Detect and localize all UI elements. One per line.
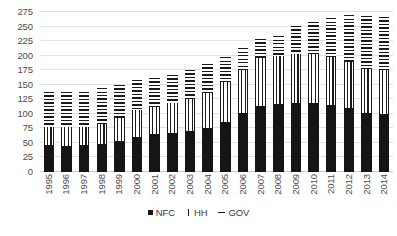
bar-group: [149, 12, 160, 172]
bar-segment-hh: [308, 54, 319, 102]
bar-segment-nfc: [167, 133, 178, 172]
bar-segment-hh: [114, 118, 125, 141]
bar-segment-gov: [308, 22, 319, 55]
bar-segment-nfc: [114, 141, 125, 172]
y-tick-label: 250: [17, 22, 33, 32]
bars-layer: [40, 12, 393, 172]
bar-segment-hh: [44, 127, 55, 146]
bar-segment-nfc: [61, 146, 72, 172]
x-tick-label: 2012: [344, 174, 354, 195]
y-tick-label: 25: [23, 153, 33, 163]
bar-segment-nfc: [149, 134, 160, 172]
bar-segment-hh: [79, 127, 90, 146]
bar-segment-gov: [255, 39, 266, 58]
legend-label: GOV: [228, 208, 249, 218]
y-tick-label: 225: [17, 36, 33, 46]
bar-segment-hh: [220, 82, 231, 122]
legend-item-hh[interactable]: HH: [186, 208, 208, 218]
bar-segment-gov: [79, 92, 90, 126]
bar-group: [185, 12, 196, 172]
bar-segment-gov: [344, 15, 355, 62]
bar-segment-nfc: [132, 137, 143, 172]
bar-segment-nfc: [361, 113, 372, 172]
bar-segment-hh: [149, 107, 160, 134]
bar-segment-gov: [114, 85, 125, 118]
bar-segment-nfc: [185, 131, 196, 172]
bar-segment-hh: [344, 62, 355, 108]
bar-segment-nfc: [308, 103, 319, 172]
x-tick-label: 2011: [326, 174, 336, 194]
legend-label: NFC: [156, 208, 175, 218]
bar-group: [361, 12, 372, 172]
bar-segment-hh: [61, 127, 72, 147]
bar-segment-hh: [326, 57, 337, 104]
y-tick-label: 200: [17, 51, 33, 61]
bar-group: [255, 12, 266, 172]
x-tick-label: 2004: [203, 174, 213, 195]
x-tick-label: 2014: [379, 174, 389, 195]
bar-group: [220, 12, 231, 172]
bar-group: [273, 12, 284, 172]
bar-segment-gov: [185, 70, 196, 99]
bar-group: [326, 12, 337, 172]
x-tick-label: 2006: [238, 174, 248, 195]
bar-segment-gov: [291, 26, 302, 55]
bar-segment-hh: [167, 103, 178, 133]
x-tick-label: 1999: [114, 174, 124, 195]
bar-segment-gov: [220, 57, 231, 83]
bar-segment-gov: [149, 78, 160, 107]
legend-label: HH: [194, 208, 208, 218]
bar-segment-nfc: [255, 106, 266, 172]
x-tick-label: 2003: [185, 174, 195, 195]
x-tick-label: 2009: [291, 174, 301, 195]
x-tick-label: 2001: [150, 174, 160, 195]
bar-segment-nfc: [97, 144, 108, 173]
bar-segment-hh: [273, 56, 284, 104]
bar-segment-nfc: [79, 145, 90, 172]
x-tick-label: 2010: [309, 174, 319, 195]
stacked-bar-chart: 0255075100125150175200225250275 19951996…: [0, 0, 397, 236]
bar-segment-gov: [44, 92, 55, 127]
bar-segment-nfc: [273, 104, 284, 172]
bar-segment-gov: [273, 36, 284, 56]
bar-segment-gov: [61, 92, 72, 126]
x-tick-label: 2002: [167, 174, 177, 195]
bar-segment-gov: [202, 64, 213, 93]
bar-segment-nfc: [220, 122, 231, 172]
bar-group: [167, 12, 178, 172]
bar-group: [114, 12, 125, 172]
bar-group: [379, 12, 390, 172]
x-tick-label: 2005: [220, 174, 230, 195]
bar-segment-hh: [238, 70, 249, 114]
horizontal-dash-icon: [218, 210, 225, 215]
bar-segment-hh: [97, 124, 108, 143]
bar-segment-nfc: [326, 105, 337, 172]
bar-group: [291, 12, 302, 172]
x-tick-label: 2007: [256, 174, 266, 195]
y-tick-label: 100: [17, 109, 33, 119]
y-tick-label: 0: [28, 167, 33, 177]
y-tick-label: 75: [23, 124, 33, 134]
legend-item-nfc[interactable]: NFC: [148, 208, 175, 218]
bar-segment-nfc: [238, 113, 249, 172]
bar-segment-gov: [167, 75, 178, 104]
x-tick-label: 2008: [273, 174, 283, 195]
bar-group: [79, 12, 90, 172]
bar-segment-hh: [379, 70, 390, 114]
bar-segment-nfc: [344, 108, 355, 172]
bar-segment-hh: [255, 58, 266, 106]
bar-group: [238, 12, 249, 172]
bar-segment-hh: [291, 54, 302, 102]
y-axis: 0255075100125150175200225250275: [0, 0, 36, 184]
chart-legend: NFCHHGOV: [0, 208, 397, 218]
y-tick-label: 125: [17, 95, 33, 105]
bar-segment-nfc: [44, 145, 55, 172]
bar-group: [132, 12, 143, 172]
legend-item-gov[interactable]: GOV: [218, 208, 249, 218]
x-tick-label: 2013: [362, 174, 372, 195]
bar-segment-hh: [361, 69, 372, 113]
y-tick-label: 50: [23, 138, 33, 148]
bar-segment-gov: [361, 16, 372, 69]
bar-group: [61, 12, 72, 172]
bar-segment-hh: [185, 99, 196, 131]
